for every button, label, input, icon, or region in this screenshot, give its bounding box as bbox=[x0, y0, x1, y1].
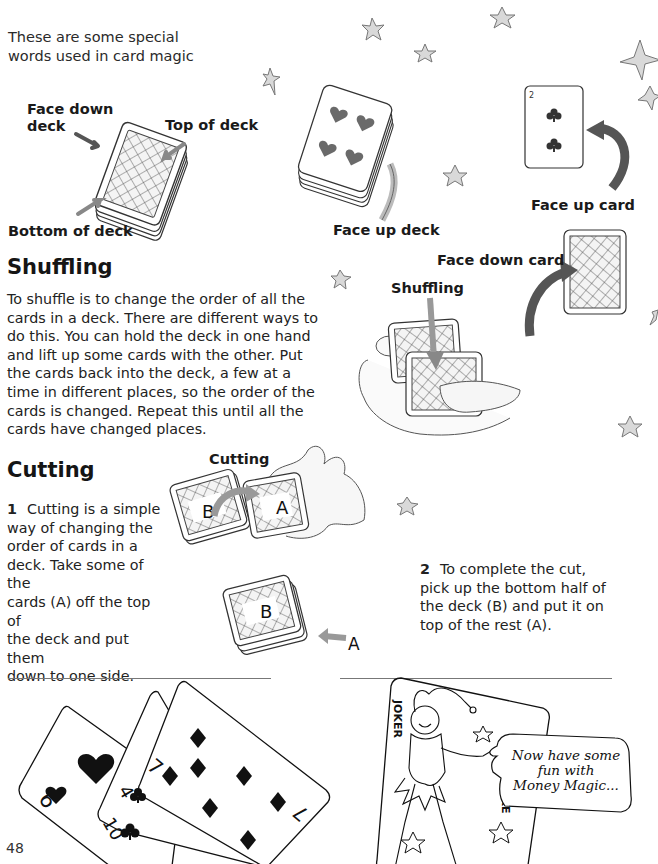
shuffling-paragraph: To shuffle is to change the order of all… bbox=[7, 290, 327, 439]
cards-fan-illustration: 6 4 10 7 7 bbox=[0, 670, 340, 860]
label-top-of-deck: Top of deck bbox=[165, 117, 258, 134]
shuffling-illustration bbox=[350, 290, 530, 450]
cutting-step-2: 2To complete the cut, pick up the bottom… bbox=[420, 560, 640, 634]
heading-shuffling: Shuffling bbox=[7, 255, 113, 279]
pile-b-bottom-marker: B bbox=[260, 601, 272, 622]
arrow-a-marker: A bbox=[348, 634, 360, 654]
face-up-deck-illustration bbox=[290, 80, 420, 220]
step-number: 2 bbox=[420, 561, 430, 577]
svg-text:2: 2 bbox=[529, 91, 534, 100]
label-face-up-deck: Face up deck bbox=[333, 222, 440, 239]
joker-speech-bubble: Now have some fun with Money Magic... bbox=[495, 748, 637, 793]
cutting-illustration: B A B A bbox=[168, 440, 378, 660]
joker-corner-text: JOKER bbox=[391, 699, 404, 738]
star-icon bbox=[331, 270, 351, 289]
star-icon bbox=[490, 7, 515, 28]
face-up-card-illustration: 2 bbox=[520, 80, 650, 210]
page-number: 48 bbox=[6, 840, 24, 856]
pile-a-marker: A bbox=[276, 497, 289, 518]
label-face-up-card: Face up card bbox=[531, 197, 635, 214]
star-icon bbox=[263, 68, 280, 95]
star-icon bbox=[650, 310, 658, 325]
star-icon bbox=[620, 40, 658, 80]
star-icon bbox=[443, 165, 467, 186]
label-face-down-card: Face down card bbox=[437, 252, 564, 269]
star-icon bbox=[618, 416, 642, 437]
arrow-icon bbox=[156, 140, 196, 170]
star-icon bbox=[362, 18, 384, 40]
star-icon bbox=[397, 497, 418, 515]
face-down-card-illustration bbox=[510, 226, 650, 356]
label-shuffling-illustration: Shuffling bbox=[391, 280, 464, 297]
cutting-step-1: 1Cutting is a simple way of changing the… bbox=[7, 500, 167, 686]
star-icon bbox=[414, 44, 436, 62]
label-face-down-deck: Face down deck bbox=[27, 101, 113, 135]
heading-cutting: Cutting bbox=[7, 458, 95, 482]
step-number: 1 bbox=[7, 501, 17, 517]
arrow-icon bbox=[74, 192, 114, 222]
label-bottom-of-deck: Bottom of deck bbox=[8, 223, 133, 240]
